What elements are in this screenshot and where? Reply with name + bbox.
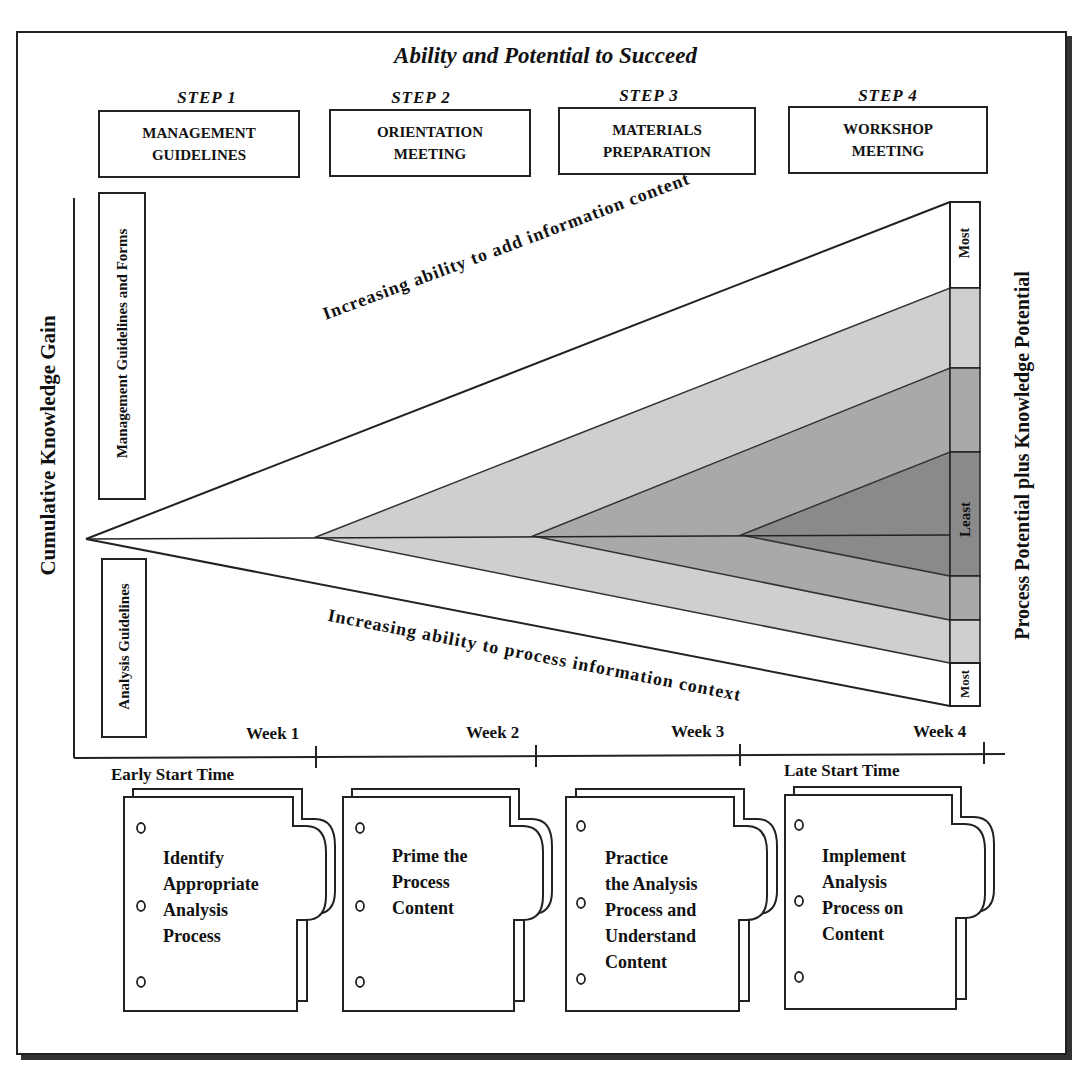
analysis-guidelines-label: Analysis Guidelines [116,567,133,727]
management-guidelines-label: Management Guidelines and Forms [114,199,131,489]
right-axis-label: Process Potential plus Knowledge Potenti… [1011,266,1034,646]
card-4-text: Implement Analysis Process on Content [822,843,906,947]
card-2-text: Prime the Process Content [392,843,467,921]
card-1-text: Identify Appropriate Analysis Process [163,845,259,949]
late-start-time-label: Late Start Time [784,761,900,781]
week-3-label: Week 3 [671,722,724,742]
scale-top-most: Most [957,213,973,273]
week-4-label: Week 4 [913,722,966,742]
y-axis-label: Cumulative Knowledge Gain [36,276,61,616]
card-3-text: Practice the Analysis Process and Unders… [605,845,698,975]
scale-least: Least [957,490,974,550]
early-start-time-label: Early Start Time [111,765,234,785]
week-1-label: Week 1 [246,724,299,744]
scale-bottom-most: Most [957,654,973,714]
week-2-label: Week 2 [466,723,519,743]
